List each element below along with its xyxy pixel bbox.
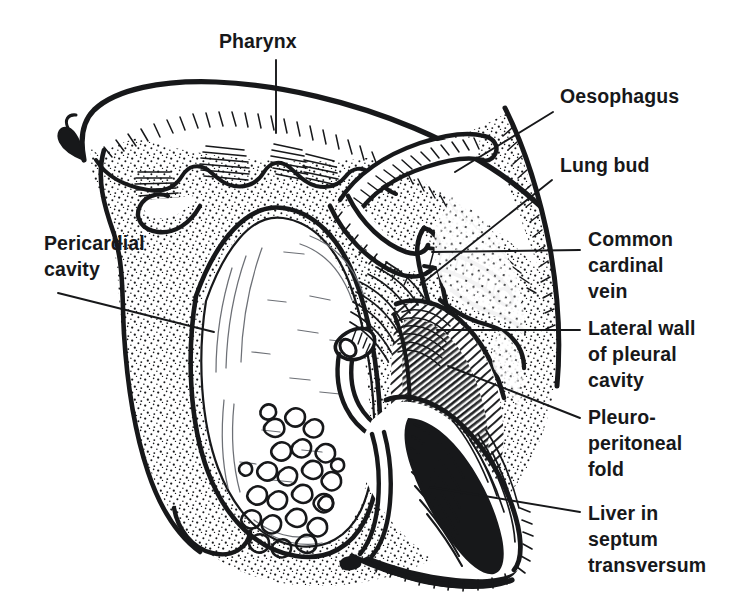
- label-common-cardinal-vein-line2: cardinal: [588, 254, 664, 276]
- label-lateral-wall-line2: of pleural: [588, 343, 677, 365]
- label-pharynx: Pharynx: [219, 30, 297, 52]
- label-pericardial-cavity-line1: Pericardial: [44, 232, 145, 254]
- anatomy-figure: Pharynx Oesophagus Lung bud Common cardi…: [0, 0, 748, 610]
- label-lung-bud: Lung bud: [560, 154, 650, 176]
- label-common-cardinal-vein-line3: vein: [588, 280, 627, 302]
- anatomy-illustration: Pharynx Oesophagus Lung bud Common cardi…: [0, 0, 748, 610]
- label-pleuroperitoneal-fold-line3: fold: [588, 458, 624, 480]
- label-liver-line2: septum: [588, 528, 658, 550]
- label-pleuroperitoneal-fold-line2: peritoneal: [588, 432, 682, 454]
- label-liver-line3: transversum: [588, 554, 706, 576]
- label-oesophagus: Oesophagus: [560, 85, 679, 107]
- label-pleuroperitoneal-fold-line1: Pleuro-: [588, 406, 656, 428]
- label-common-cardinal-vein-line1: Common: [588, 228, 673, 250]
- label-lateral-wall-line3: cavity: [588, 369, 644, 391]
- label-pericardial-cavity-line2: cavity: [44, 258, 100, 280]
- label-liver-line1: Liver in: [588, 502, 658, 524]
- label-lateral-wall-line1: Lateral wall: [588, 317, 695, 339]
